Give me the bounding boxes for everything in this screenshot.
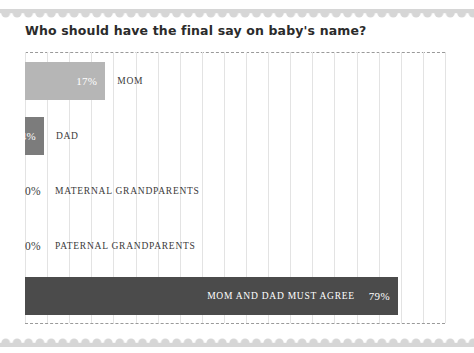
bar-value-label: 4% <box>21 130 36 142</box>
plot-boundary-bottom <box>25 323 445 324</box>
bar-value-label: 79% <box>369 290 390 302</box>
bar-value-label: 17% <box>76 75 97 87</box>
gridline <box>445 52 446 323</box>
bar-row[interactable]: 4%DAD <box>25 117 445 155</box>
bar-value-label: 0% <box>25 185 41 197</box>
chart-title: Who should have the final say on baby's … <box>25 23 367 38</box>
infographic-card: Who should have the final say on baby's … <box>0 0 474 353</box>
bar-category-label: MOM <box>117 76 143 86</box>
bar-row[interactable]: 17%MOM <box>25 62 445 100</box>
bar-category-label: MATERNAL GRANDPARENTS <box>55 186 200 196</box>
chart-bars: 17%MOM4%DAD0%MATERNAL GRANDPARENTS0%PATE… <box>25 52 445 323</box>
scallop-border-bottom <box>0 336 474 347</box>
bar-category-label: DAD <box>56 131 79 141</box>
bar-category-label: MOM AND DAD MUST AGREE <box>207 291 355 301</box>
scallop-border-top <box>0 9 474 20</box>
bar-row[interactable]: 0%PATERNAL GRANDPARENTS <box>25 227 445 265</box>
bar-row[interactable]: 0%MATERNAL GRANDPARENTS <box>25 172 445 210</box>
bar-category-label: PATERNAL GRANDPARENTS <box>55 241 196 251</box>
chart-plot-area: 17%MOM4%DAD0%MATERNAL GRANDPARENTS0%PATE… <box>25 52 445 323</box>
bar-row[interactable]: 79%MOM AND DAD MUST AGREE <box>25 277 445 315</box>
bar-value-label: 0% <box>25 240 41 252</box>
